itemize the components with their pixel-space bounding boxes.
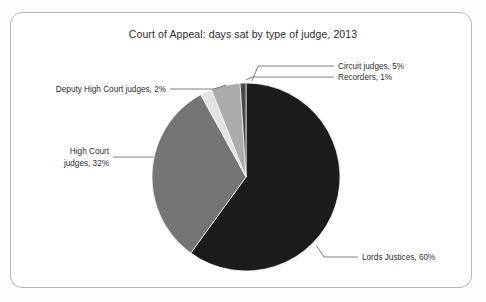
pie-chart: Court of Appeal: days sat by type of jud… [0, 0, 486, 302]
chart-page: Court of Appeal: days sat by type of jud… [0, 0, 486, 302]
leader-line-lords-justices [316, 245, 358, 257]
chart-title: Court of Appeal: days sat by type of jud… [129, 28, 357, 40]
slice-label-recorders: Recorders, 1% [338, 73, 392, 82]
slice-label-high-court-judges-line2: judges, 32% [63, 159, 109, 168]
slice-label-high-court-judges-line1: High Court [70, 147, 110, 156]
slice-label-circuit-judges: Circuit judges, 5% [338, 62, 404, 71]
slice-label-lords-justices: Lords Justices, 60% [362, 253, 435, 262]
leader-line-recorders [246, 77, 334, 80]
leader-line-circuit-judges [252, 66, 334, 81]
pie-slices [152, 83, 340, 271]
slice-label-deputy-high-court-judges: Deputy High Court judges, 2% [56, 85, 166, 94]
